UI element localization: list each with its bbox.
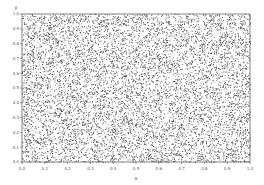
y-tick-label: 0.4 xyxy=(13,100,20,105)
y-tick-label: 0.5 xyxy=(13,85,20,90)
x-tick-label: 0.4 xyxy=(110,166,117,171)
x-tick-label: 0.5 xyxy=(133,166,140,171)
y-tick-label: 0.3 xyxy=(13,115,20,120)
y-tick-label: 0.2 xyxy=(13,130,20,135)
x-tick-label: 0.9 xyxy=(224,166,231,171)
x-tick-label: 0.8 xyxy=(201,166,208,171)
x-tick-label: 0.3 xyxy=(87,166,94,171)
x-tick-label: 0.0 xyxy=(19,166,26,171)
x-tick-label: 1.0 xyxy=(247,166,254,171)
x-axis-label: x xyxy=(135,175,138,181)
y-tick-label: 0.6 xyxy=(13,71,20,76)
y-tick-label: 0.1 xyxy=(13,145,20,150)
y-axis-ticks: 0.00.10.20.30.40.50.60.70.80.91.0 xyxy=(13,11,22,164)
y-tick-label: 0.0 xyxy=(13,159,20,164)
scatter-chart: 0.00.10.20.30.40.50.60.70.80.91.0 0.00.1… xyxy=(0,0,264,185)
x-tick-label: 0.6 xyxy=(156,166,163,171)
x-tick-label: 0.7 xyxy=(178,166,185,171)
y-axis-label: y xyxy=(15,4,18,11)
x-tick-label: 0.1 xyxy=(42,166,49,171)
y-tick-label: 0.7 xyxy=(13,56,20,61)
scatter-points xyxy=(22,14,251,163)
y-tick-label: 1.0 xyxy=(13,11,20,16)
x-tick-label: 0.2 xyxy=(64,166,71,171)
x-axis-ticks: 0.00.10.20.30.40.50.60.70.80.91.0 xyxy=(19,162,254,171)
y-tick-label: 0.9 xyxy=(13,26,20,31)
y-tick-label: 0.8 xyxy=(13,41,20,46)
